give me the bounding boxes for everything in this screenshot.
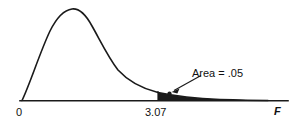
x-axis-label: F: [274, 106, 281, 117]
f-distribution-figure: 0 3.07 F Area = .05: [0, 0, 294, 125]
area-annotation-label: Area = .05: [192, 68, 243, 79]
area-marker-dot: [167, 91, 171, 95]
density-curve: [22, 9, 268, 101]
critical-value-label: 3.07: [145, 107, 166, 118]
origin-label: 0: [16, 107, 22, 118]
